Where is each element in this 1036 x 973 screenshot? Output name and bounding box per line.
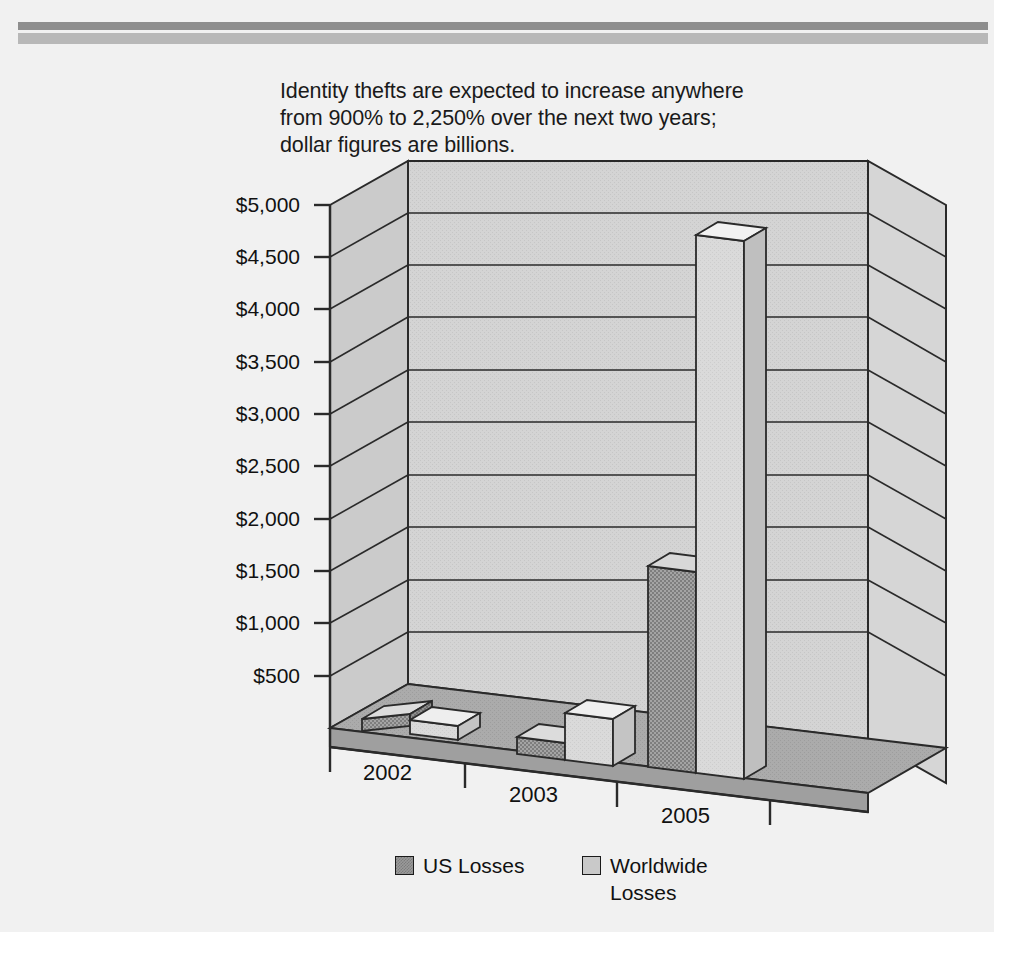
y-axis-label-3000: $3,000	[190, 402, 300, 426]
chart-back-wall	[408, 161, 868, 739]
page-root: Identity thefts are expected to increase…	[0, 0, 1036, 973]
legend-label-worldwide-losses-wrapper: Worldwide Losses	[610, 852, 708, 906]
legend-swatch-us-losses-icon	[395, 856, 414, 875]
legend-label-worldwide-losses-line1: Worldwide	[610, 854, 708, 877]
legend-item-us-losses[interactable]: US Losses	[395, 852, 525, 879]
x-axis-label-2003: 2003	[509, 782, 558, 808]
legend-item-worldwide-losses[interactable]: Worldwide Losses	[582, 852, 708, 906]
y-axis-label-3500: $3,500	[190, 350, 300, 374]
legend-label-us-losses: US Losses	[423, 852, 525, 879]
chart-svg-canvas	[0, 0, 994, 932]
y-axis-label-1500: $1,500	[190, 559, 300, 583]
legend-label-worldwide-losses-line2: Losses	[610, 881, 677, 904]
y-axis-label-1000: $1,000	[190, 611, 300, 635]
bar-2005-worldwide-losses[interactable]	[696, 222, 766, 779]
y-axis-label-2000: $2,000	[190, 507, 300, 531]
y-axis-label-5000: $5,000	[190, 193, 300, 217]
y-axis-label-4000: $4,000	[190, 297, 300, 321]
y-axis-ticks	[314, 205, 330, 676]
bar-chart-3d: $5,000 $4,500 $4,000 $3,500 $3,000 $2,50…	[0, 0, 994, 932]
chart-right-wall	[868, 161, 946, 783]
x-axis-label-2005: 2005	[661, 803, 710, 829]
x-axis-label-2002: 2002	[363, 760, 412, 786]
y-axis-label-4500: $4,500	[190, 245, 300, 269]
bar-2003-worldwide-losses[interactable]	[565, 700, 635, 766]
y-axis-label-500: $500	[190, 664, 300, 688]
y-axis-label-2500: $2,500	[190, 454, 300, 478]
legend-swatch-worldwide-losses-icon	[582, 856, 601, 875]
